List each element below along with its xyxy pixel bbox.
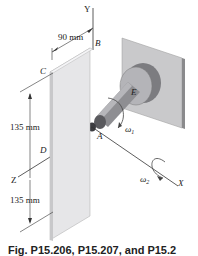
width-dimension-label: 90 mm xyxy=(58,32,83,42)
lower-height-label: 135 mm xyxy=(10,195,40,205)
point-d-label: D xyxy=(39,145,47,155)
rectangular-plate xyxy=(50,48,90,240)
point-c-label: C xyxy=(40,66,47,76)
y-axis-label: Y xyxy=(84,4,91,14)
point-b-label: B xyxy=(95,38,101,48)
upper-height-label: 135 mm xyxy=(10,122,40,132)
omega2-label: ω2 xyxy=(140,174,149,185)
omega2-rotation-arrow xyxy=(152,158,165,178)
point-a-label: A xyxy=(96,131,103,141)
rotating-plate-diagram: Y B 90 mm C E 135 mm ω1 A D Z ω2 X 135 m… xyxy=(0,0,198,256)
x-axis-line xyxy=(92,127,178,186)
point-e-label: E xyxy=(130,87,137,97)
figure-caption: Fig. P15.206, P15.207, and P15.2 xyxy=(8,244,176,256)
omega1-label: ω1 xyxy=(125,124,134,135)
x-axis-label: X xyxy=(177,178,184,188)
z-axis-label: Z xyxy=(11,175,17,185)
